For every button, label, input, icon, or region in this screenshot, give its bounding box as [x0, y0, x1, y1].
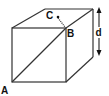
label-b: B	[67, 28, 74, 39]
bottom-right-edge	[66, 57, 93, 82]
diagonal-ab	[12, 28, 66, 82]
point-c	[57, 16, 60, 19]
arrow-down-head	[97, 50, 102, 56]
label-c: C	[46, 10, 53, 21]
label-a: A	[1, 85, 8, 96]
top-right-edge	[66, 9, 93, 28]
label-d: d	[96, 27, 102, 38]
cube-diagram: A B C d	[0, 0, 109, 96]
segment-cb	[58, 18, 65, 27]
top-left-edge	[12, 9, 45, 28]
arrow-up-head	[97, 7, 102, 13]
